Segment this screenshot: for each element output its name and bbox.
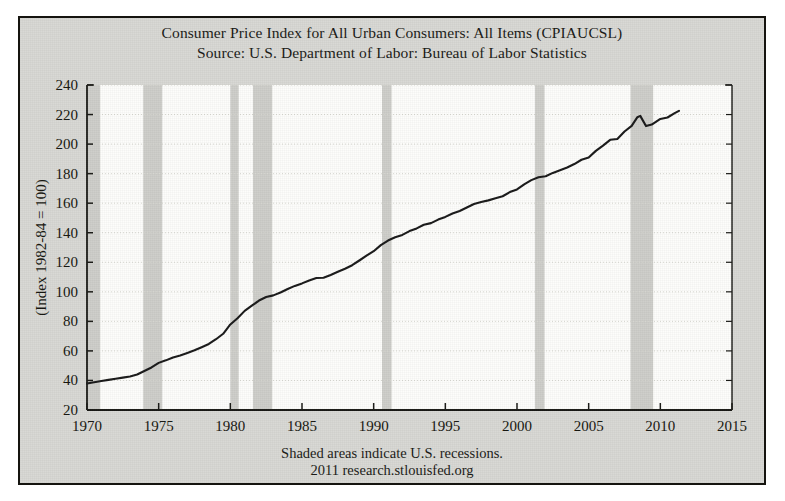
recession-band [253, 85, 272, 410]
recession-band [382, 85, 392, 410]
y-tick-label: 120 [56, 254, 79, 270]
chart-subtitle: Source: U.S. Department of Labor: Bureau… [20, 43, 764, 63]
x-tick-label: 2005 [574, 418, 604, 434]
y-tick-label: 60 [63, 343, 78, 359]
x-tick-label: 1970 [72, 418, 102, 434]
recession-note: Shaded areas indicate U.S. recessions. [20, 445, 764, 462]
chart-footer-block: Shaded areas indicate U.S. recessions. 2… [20, 445, 764, 479]
y-tick-label: 140 [56, 225, 79, 241]
y-tick-label: 100 [56, 284, 79, 300]
plot-area: 2040608010012014016018020022024019701975… [20, 18, 768, 487]
x-tick-label: 1995 [430, 418, 460, 434]
y-tick-label: 80 [63, 313, 78, 329]
chart-figure: Consumer Price Index for All Urban Consu… [18, 16, 766, 485]
source-credit: 2011 research.stlouisfed.org [20, 462, 764, 479]
recession-band [535, 85, 545, 410]
recession-band [631, 85, 654, 410]
x-tick-label: 1980 [215, 418, 245, 434]
x-tick-label: 2000 [502, 418, 532, 434]
x-tick-label: 1990 [359, 418, 389, 434]
recession-band [143, 85, 162, 410]
y-tick-label: 180 [56, 166, 79, 182]
chart-title-block: Consumer Price Index for All Urban Consu… [20, 23, 764, 63]
x-tick-label: 2010 [645, 418, 675, 434]
y-tick-label: 220 [56, 107, 79, 123]
y-tick-label: 160 [56, 195, 79, 211]
y-tick-label: 40 [63, 372, 78, 388]
x-tick-label: 2015 [717, 418, 747, 434]
y-tick-label: 200 [56, 136, 79, 152]
x-tick-label: 1975 [144, 418, 174, 434]
y-axis-label: (Index 1982-84 = 100) [33, 179, 50, 315]
chart-title: Consumer Price Index for All Urban Consu… [20, 23, 764, 43]
y-tick-label: 20 [63, 402, 78, 418]
recession-band [230, 85, 238, 410]
x-tick-label: 1985 [287, 418, 317, 434]
recession-band [87, 85, 100, 410]
y-tick-label: 240 [56, 77, 79, 93]
